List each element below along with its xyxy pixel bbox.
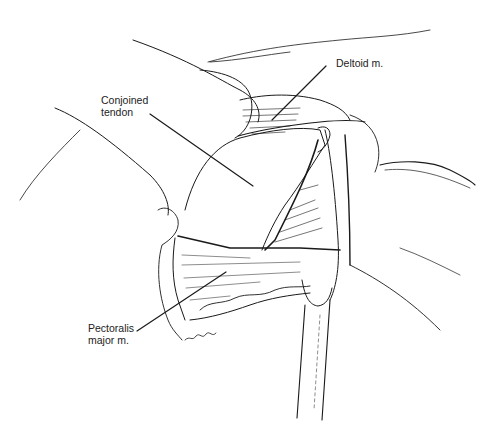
retractor-blade-inner xyxy=(345,135,350,265)
label-conjoined-tendon: Conjoined tendon xyxy=(101,94,148,118)
pectoralis-band xyxy=(173,238,185,320)
arm-outline-top xyxy=(133,40,259,122)
retractor-blade xyxy=(325,130,338,300)
retractor-shaft-right xyxy=(322,300,330,420)
pectoralis-lower xyxy=(190,293,310,320)
conjoined-lateral-edge xyxy=(265,140,318,250)
retractor-finger xyxy=(200,70,252,138)
pectoralis-fibers xyxy=(182,255,300,300)
artist-signature xyxy=(185,333,216,340)
pectoralis-wavy-edge xyxy=(200,286,310,310)
conjoined-tendon xyxy=(185,128,325,250)
skin-flap-left xyxy=(158,208,182,340)
label-pectoralis-major: Pectoralis major m. xyxy=(88,322,134,346)
anatomical-illustration: Deltoid m. Conjoined tendon Pectoralis m… xyxy=(0,0,492,435)
skin-right-lower-2 xyxy=(400,248,460,275)
skin-right-fold-2 xyxy=(385,169,470,188)
label-deltoid: Deltoid m. xyxy=(336,57,383,69)
skin-left xyxy=(20,130,80,200)
label-conjoined-line1: Conjoined xyxy=(101,94,148,106)
label-deltoid-text: Deltoid m. xyxy=(336,57,383,69)
retractor-shaft-left xyxy=(297,305,305,418)
skin-top xyxy=(208,30,430,62)
label-pectoralis-line1: Pectoralis xyxy=(88,322,134,334)
surgical-drawing xyxy=(0,0,492,435)
pectoralis-pointer xyxy=(137,272,226,331)
skin-right-lower xyxy=(350,265,440,330)
label-conjoined-line2: tendon xyxy=(101,106,148,118)
retractor-shaft-shade xyxy=(314,315,320,410)
deltoid-muscle xyxy=(240,95,350,120)
retractor-finger-edge xyxy=(210,52,290,62)
arm-outline-left xyxy=(55,108,168,215)
skin-right-edge xyxy=(350,115,379,172)
conjoined-pointer xyxy=(150,114,253,186)
deltoid-pointer xyxy=(272,66,326,120)
label-pectoralis-line2: major m. xyxy=(88,334,134,346)
tendon-lower-edge xyxy=(178,236,340,250)
